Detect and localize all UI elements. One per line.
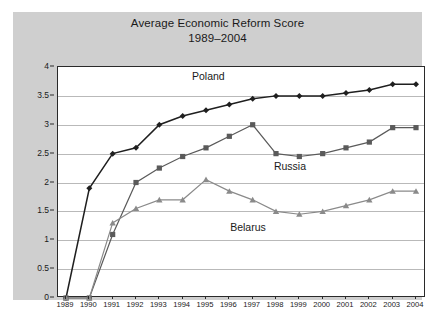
data-point-marker xyxy=(367,139,372,144)
x-axis-tick-mark xyxy=(275,296,276,299)
x-axis-tick-label: 2000 xyxy=(313,300,330,309)
x-axis-tick-mark xyxy=(252,296,253,299)
chart-subtitle: 1989–2004 xyxy=(13,31,422,45)
x-axis-tick-mark xyxy=(65,296,66,299)
data-point-marker xyxy=(203,145,208,150)
x-axis-tick-label: 2004 xyxy=(407,300,424,309)
x-axis-tick-label: 2002 xyxy=(360,300,377,309)
y-axis-tick-label: 3 xyxy=(44,119,49,129)
x-axis-tick-mark xyxy=(368,296,369,299)
series-label-poland: Poland xyxy=(192,70,225,82)
y-axis-tick-label: 2 xyxy=(44,177,49,187)
data-point-marker xyxy=(109,220,115,226)
x-axis-tick-mark xyxy=(322,296,323,299)
data-point-marker xyxy=(343,90,349,96)
x-axis-tick-mark xyxy=(112,296,113,299)
y-axis-tick-mark xyxy=(50,268,54,269)
x-axis-tick-label: 1995 xyxy=(197,300,214,309)
data-point-marker xyxy=(413,81,419,87)
x-axis-tick-labels: 1989199019911992199319941995199619971998… xyxy=(57,299,425,315)
y-axis-tick-mark xyxy=(50,94,54,95)
chart-title: Average Economic Reform Score xyxy=(13,16,422,31)
data-point-marker xyxy=(413,125,418,130)
x-axis-tick-mark xyxy=(135,296,136,299)
data-point-marker xyxy=(250,122,255,127)
data-point-marker xyxy=(203,107,209,113)
data-point-marker xyxy=(133,180,138,185)
x-axis-tick-label: 1999 xyxy=(290,300,307,309)
y-axis-tick-mark xyxy=(50,239,54,240)
data-point-marker xyxy=(180,113,186,119)
series-line xyxy=(66,84,416,298)
y-axis-tick-label: 3.5 xyxy=(37,90,49,100)
x-axis-tick-label: 1998 xyxy=(267,300,284,309)
data-point-marker xyxy=(226,102,232,108)
y-axis-tick-mark xyxy=(50,152,54,153)
y-axis-tick-mark xyxy=(50,181,54,182)
data-point-marker xyxy=(320,93,326,99)
data-point-marker xyxy=(250,96,256,102)
x-axis-tick-label: 2001 xyxy=(337,300,354,309)
data-point-marker xyxy=(226,188,232,194)
y-axis-tick-mark xyxy=(50,210,54,211)
chart-title-block: Average Economic Reform Score 1989–2004 xyxy=(13,16,422,45)
series-line xyxy=(66,180,416,298)
x-axis-tick-mark xyxy=(228,296,229,299)
y-axis-tick-label: 0.5 xyxy=(37,263,49,273)
series-poland xyxy=(63,81,419,301)
data-point-marker xyxy=(273,93,279,99)
data-point-marker xyxy=(390,81,396,87)
data-point-marker xyxy=(390,125,395,130)
data-point-marker xyxy=(157,165,162,170)
x-axis-tick-label: 1991 xyxy=(103,300,120,309)
y-axis-tick-mark xyxy=(50,297,54,298)
series-layer xyxy=(58,67,426,298)
data-point-marker xyxy=(343,145,348,150)
data-point-marker xyxy=(320,151,325,156)
x-axis-tick-mark xyxy=(392,296,393,299)
y-axis-tick-label: 1 xyxy=(44,234,49,244)
chart-figure-panel: Average Economic Reform Score 1989–2004 … xyxy=(13,12,422,300)
data-point-marker xyxy=(297,154,302,159)
x-axis-tick-mark xyxy=(298,296,299,299)
x-axis-tick-mark xyxy=(205,296,206,299)
data-point-marker xyxy=(227,134,232,139)
x-axis-tick-label: 1992 xyxy=(127,300,144,309)
x-axis-tick-label: 1996 xyxy=(220,300,237,309)
data-point-marker xyxy=(203,177,209,183)
x-axis-tick-mark xyxy=(345,296,346,299)
x-axis-tick-mark xyxy=(182,296,183,299)
plot-area: PolandRussiaBelarus xyxy=(57,66,425,297)
y-axis-tick-label: 1.5 xyxy=(37,205,49,215)
y-axis-tick-labels: 00.511.522.533.54 xyxy=(26,66,54,297)
x-axis-tick-label: 1993 xyxy=(150,300,167,309)
series-label-belarus: Belarus xyxy=(230,221,266,233)
series-belarus xyxy=(63,177,419,301)
data-point-marker xyxy=(273,151,278,156)
x-axis-tick-mark xyxy=(88,296,89,299)
x-axis-tick-mark xyxy=(158,296,159,299)
x-axis-tick-label: 1994 xyxy=(173,300,190,309)
series-russia xyxy=(63,122,418,300)
y-axis-tick-mark xyxy=(50,123,54,124)
y-axis-tick-label: 4 xyxy=(44,61,49,71)
series-line xyxy=(66,125,416,298)
data-point-marker xyxy=(180,154,185,159)
data-point-marker xyxy=(366,87,372,93)
y-axis-tick-label: 0 xyxy=(44,292,49,302)
series-label-russia: Russia xyxy=(274,160,306,172)
y-axis-tick-mark xyxy=(50,66,54,67)
x-axis-tick-label: 1997 xyxy=(243,300,260,309)
data-point-marker xyxy=(296,93,302,99)
x-axis-tick-label: 2003 xyxy=(383,300,400,309)
x-axis-tick-label: 1989 xyxy=(57,300,74,309)
data-point-marker xyxy=(110,232,115,237)
x-axis-tick-mark xyxy=(415,296,416,299)
y-axis-tick-label: 2.5 xyxy=(37,148,49,158)
x-axis-tick-label: 1990 xyxy=(80,300,97,309)
